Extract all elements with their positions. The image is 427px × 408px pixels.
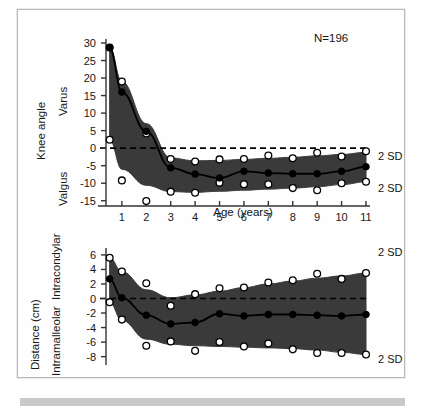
distance-axis-title: Distance (cm) bbox=[30, 299, 41, 370]
mean-data-point bbox=[192, 319, 199, 326]
sd-data-point bbox=[314, 350, 321, 357]
sd-data-point bbox=[118, 316, 125, 323]
mean-data-point bbox=[241, 313, 248, 320]
mean-data-point bbox=[241, 168, 248, 175]
sd-data-point bbox=[216, 285, 223, 292]
sd-data-point bbox=[265, 181, 272, 188]
mean-data-point bbox=[106, 44, 113, 51]
mean-data-point bbox=[265, 170, 272, 177]
x-axis-tick-label: 8 bbox=[290, 211, 296, 223]
sd-data-point bbox=[314, 270, 321, 277]
sd-data-point bbox=[363, 178, 370, 185]
sd-data-point bbox=[167, 338, 174, 345]
figure-frame: Knee angle Varus Valgus N=196 2 SD 2 SD … bbox=[17, 9, 405, 378]
knee-angle-sd-label-lower: 2 SD bbox=[378, 182, 402, 194]
confidence-band bbox=[110, 48, 366, 193]
distance-sd-label-lower: 2 SD bbox=[378, 353, 402, 365]
x-axis-tick-label: 7 bbox=[265, 211, 271, 223]
mean-data-point bbox=[119, 89, 126, 96]
sd-data-point bbox=[241, 343, 248, 350]
sd-data-point bbox=[265, 152, 272, 159]
sd-data-point bbox=[314, 149, 321, 156]
sd-data-point bbox=[289, 277, 296, 284]
y-axis-tick-label: -6 bbox=[60, 336, 96, 348]
x-axis-tick-label: 3 bbox=[168, 211, 174, 223]
mean-data-point bbox=[106, 276, 113, 283]
y-axis-tick-label: -8 bbox=[60, 351, 96, 363]
x-axis-tick-label: 5 bbox=[216, 211, 222, 223]
sd-data-point bbox=[363, 351, 370, 358]
mean-data-point bbox=[338, 168, 345, 175]
sd-data-point bbox=[106, 136, 113, 143]
mean-data-point bbox=[265, 311, 272, 318]
y-axis-tick-label: 10 bbox=[60, 107, 96, 119]
sd-data-point bbox=[167, 156, 174, 163]
sd-data-point bbox=[289, 185, 296, 192]
mean-data-point bbox=[216, 310, 223, 317]
sd-data-point bbox=[106, 299, 113, 306]
y-axis-tick-label: -4 bbox=[60, 322, 96, 334]
mean-data-point bbox=[119, 294, 126, 301]
x-axis-tick-label: 1 bbox=[119, 211, 125, 223]
sd-data-point bbox=[192, 291, 199, 298]
mean-data-point bbox=[289, 170, 296, 177]
sd-data-point bbox=[338, 153, 345, 160]
y-axis-tick-label: 30 bbox=[60, 37, 96, 49]
y-axis-tick-label: 5 bbox=[60, 125, 96, 137]
sd-data-point bbox=[192, 347, 199, 354]
mean-data-point bbox=[192, 171, 199, 178]
mean-data-point bbox=[314, 312, 321, 319]
chart-knee-angle: Knee angle Varus Valgus N=196 2 SD 2 SD … bbox=[18, 10, 406, 228]
sd-data-point bbox=[265, 340, 272, 347]
sd-data-point bbox=[289, 155, 296, 162]
mean-data-point bbox=[289, 311, 296, 318]
sd-data-point bbox=[118, 177, 125, 184]
x-axis-tick-label: 10 bbox=[335, 211, 347, 223]
sd-data-point bbox=[106, 254, 113, 261]
sd-data-point bbox=[118, 78, 125, 85]
chart-distance: Distance (cm) Intracondylar Intramalleol… bbox=[18, 228, 406, 379]
y-axis-tick-label: 15 bbox=[60, 90, 96, 102]
x-axis-tick-label: 9 bbox=[314, 211, 320, 223]
sd-data-point bbox=[216, 339, 223, 346]
confidence-band bbox=[110, 258, 366, 355]
sd-data-point bbox=[265, 279, 272, 286]
mean-data-point bbox=[143, 312, 150, 319]
mean-data-point bbox=[143, 128, 150, 135]
sd-data-point bbox=[314, 187, 321, 194]
sd-data-point bbox=[216, 156, 223, 163]
sd-data-point bbox=[192, 158, 199, 165]
sample-size-annotation: N=196 bbox=[314, 32, 348, 44]
mean-data-point bbox=[167, 321, 174, 328]
mean-data-point bbox=[167, 164, 174, 171]
y-axis-tick-label: 0 bbox=[60, 142, 96, 154]
y-axis-tick-label: 2 bbox=[60, 278, 96, 290]
y-axis-tick-label: 20 bbox=[60, 72, 96, 84]
y-axis-tick-label: -2 bbox=[60, 307, 96, 319]
sd-data-point bbox=[241, 156, 248, 163]
x-axis-tick-label: 4 bbox=[192, 211, 198, 223]
sd-data-point bbox=[143, 342, 150, 349]
sd-data-point bbox=[118, 268, 125, 275]
y-axis-tick-label: 6 bbox=[60, 249, 96, 261]
sd-data-point bbox=[338, 180, 345, 187]
sd-data-point bbox=[192, 189, 199, 196]
x-axis-tick-label: 6 bbox=[241, 211, 247, 223]
sd-data-point bbox=[167, 302, 174, 309]
mean-data-point bbox=[363, 163, 370, 170]
mean-data-point bbox=[314, 170, 321, 177]
mean-data-point bbox=[216, 175, 223, 182]
knee-angle-axis-title: Knee angle bbox=[36, 102, 47, 160]
sd-data-point bbox=[167, 188, 174, 195]
y-axis-tick-label: -15 bbox=[60, 195, 96, 207]
y-axis-tick-label: 4 bbox=[60, 263, 96, 275]
mean-data-point bbox=[363, 311, 370, 318]
sd-data-point bbox=[241, 284, 248, 291]
knee-angle-sd-label-upper: 2 SD bbox=[378, 150, 402, 162]
sd-data-point bbox=[363, 148, 370, 155]
distance-sd-label-upper: 2 SD bbox=[378, 246, 402, 258]
y-axis-tick-label: -10 bbox=[60, 177, 96, 189]
sd-data-point bbox=[338, 350, 345, 357]
sd-data-point bbox=[363, 270, 370, 277]
sd-data-point bbox=[143, 198, 150, 205]
